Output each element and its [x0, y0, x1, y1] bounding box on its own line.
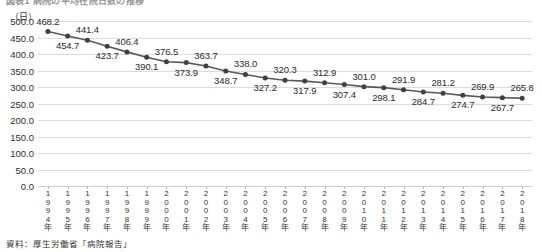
y-axis-tick-label: 100.0 — [0, 148, 34, 159]
data-value-label: 423.7 — [96, 50, 119, 61]
data-point-marker — [85, 38, 90, 43]
data-point-marker — [322, 80, 327, 85]
data-value-label: 301.0 — [352, 71, 375, 82]
data-point-marker — [401, 87, 406, 92]
data-point-marker — [480, 94, 485, 99]
x-axis-tick-label: 1 9 9 6 年 — [79, 190, 95, 233]
data-point-marker — [164, 59, 169, 64]
data-point-marker — [223, 68, 228, 73]
data-value-label: 406.4 — [115, 36, 138, 47]
data-point-marker — [362, 84, 367, 89]
data-point-marker — [460, 93, 465, 98]
data-point-marker — [203, 63, 208, 68]
y-axis-tick-label: 350.0 — [0, 65, 34, 76]
x-axis-tick-label: 2 0 1 5 年 — [455, 190, 471, 233]
data-value-label: 317.9 — [293, 85, 316, 96]
data-value-label: 468.2 — [36, 16, 59, 27]
x-axis-tick-label: 1 9 9 4 年 — [40, 190, 56, 233]
data-value-label: 338.0 — [234, 58, 257, 69]
data-point-marker — [441, 91, 446, 96]
data-value-label: 454.7 — [56, 40, 79, 51]
y-axis-tick-label: 200.0 — [0, 115, 34, 126]
data-point-marker — [381, 85, 386, 90]
data-value-label: 441.4 — [76, 24, 99, 35]
x-axis: 1 9 9 4 年1 9 9 5 年1 9 9 6 年1 9 9 7 年1 9 … — [38, 186, 532, 234]
y-axis-tick-label: 500.0 — [0, 16, 34, 27]
data-value-label: 265.8 — [510, 82, 533, 93]
data-point-marker — [65, 33, 70, 38]
x-axis-tick-label: 2 0 0 8 年 — [317, 190, 333, 233]
x-axis-tick-label: 2 0 1 0 年 — [356, 190, 372, 233]
data-value-label: 320.3 — [273, 64, 296, 75]
x-axis-tick-label: 2 0 1 7 年 — [494, 190, 510, 233]
y-axis-tick-label: 250.0 — [0, 98, 34, 109]
x-axis-tick-label: 1 9 9 5 年 — [60, 190, 76, 233]
x-axis-tick-label: 1 9 9 8 年 — [119, 190, 135, 233]
plot-area: 468.2454.7441.4423.7406.4390.1376.5373.9… — [38, 21, 532, 186]
data-value-label: 281.2 — [431, 77, 454, 88]
x-axis-tick-label: 2 0 0 2 年 — [198, 190, 214, 233]
x-axis-tick-label: 2 0 0 7 年 — [297, 190, 313, 233]
data-point-marker — [500, 95, 505, 100]
data-value-label: 298.1 — [372, 92, 395, 103]
data-value-label: 327.2 — [254, 82, 277, 93]
x-axis-tick-label: 2 0 1 6 年 — [475, 190, 491, 233]
line-chart: 468.2454.7441.4423.7406.4390.1376.5373.9… — [0, 21, 542, 186]
data-point-marker — [342, 82, 347, 87]
x-axis-tick-label: 2 0 1 3 年 — [415, 190, 431, 233]
data-point-marker — [124, 49, 129, 54]
x-axis-tick-label: 2 0 0 1 年 — [178, 190, 194, 233]
data-point-marker — [45, 29, 50, 34]
data-value-label: 348.7 — [214, 75, 237, 86]
y-axis-tick-label: 150.0 — [0, 131, 34, 142]
data-value-label: 390.1 — [135, 61, 158, 72]
x-axis-tick-label: 1 9 9 9 年 — [139, 190, 155, 233]
data-value-label: 373.9 — [175, 67, 198, 78]
data-point-marker — [184, 60, 189, 65]
x-axis-tick-label: 2 0 0 6 年 — [277, 190, 293, 233]
data-point-marker — [144, 55, 149, 60]
data-value-label: 291.9 — [392, 74, 415, 85]
data-point-marker — [105, 44, 110, 49]
source-note: 資料：厚生労働省「病院報告」 — [6, 237, 132, 249]
data-point-marker — [302, 79, 307, 84]
x-axis-tick-label: 2 0 0 0 年 — [158, 190, 174, 233]
x-axis-tick-label: 2 0 1 4 年 — [435, 190, 451, 233]
x-axis-tick-label: 2 0 1 2 年 — [396, 190, 412, 233]
data-value-label: 376.5 — [155, 46, 178, 57]
y-axis-tick-label: 450.0 — [0, 32, 34, 43]
x-axis-tick-label: 2 0 0 9 年 — [336, 190, 352, 233]
data-value-label: 363.7 — [194, 50, 217, 61]
figure-title: 図表1 病院の平均在院日数の推移 — [6, 0, 144, 7]
y-axis-tick-label: 300.0 — [0, 82, 34, 93]
y-axis-tick-label: 0.0 — [0, 181, 34, 192]
x-axis-tick-label: 2 0 0 5 年 — [257, 190, 273, 233]
data-point-marker — [263, 76, 268, 81]
data-value-label: 274.7 — [451, 99, 474, 110]
data-value-label: 284.7 — [412, 96, 435, 107]
data-value-label: 307.4 — [333, 89, 356, 100]
x-axis-tick-label: 2 0 0 4 年 — [237, 190, 253, 233]
data-value-label: 312.9 — [313, 67, 336, 78]
data-point-marker — [421, 90, 426, 95]
data-point-marker — [243, 72, 248, 77]
y-axis-tick-label: 50.0 — [0, 164, 34, 175]
data-value-label: 267.7 — [491, 102, 514, 113]
x-axis-tick-label: 2 0 1 1 年 — [376, 190, 392, 233]
data-value-label: 269.9 — [471, 81, 494, 92]
x-axis-tick-label: 1 9 9 7 年 — [99, 190, 115, 233]
x-axis-tick-label: 2 0 1 8 年 — [514, 190, 530, 233]
y-axis-tick-label: 400.0 — [0, 49, 34, 60]
data-point-marker — [283, 78, 288, 83]
data-point-marker — [520, 96, 525, 101]
x-axis-tick-label: 2 0 0 3 年 — [218, 190, 234, 233]
